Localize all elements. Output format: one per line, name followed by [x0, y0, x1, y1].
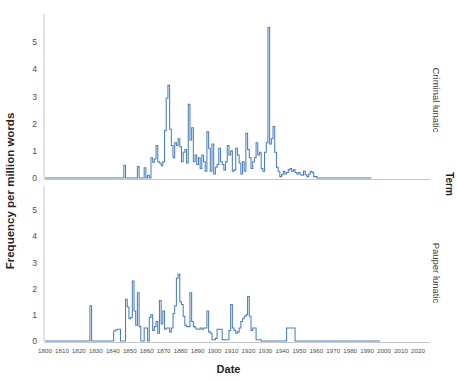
x-tick-label-1990: 1990	[360, 347, 374, 354]
x-tick-label-1870: 1870	[157, 347, 171, 354]
x-tick-label-1830: 1830	[89, 347, 103, 354]
y-tick-label-top-5: 5	[21, 38, 37, 46]
x-tick-label-1920: 1920	[242, 347, 256, 354]
y-tick-label-bottom-5: 5	[21, 206, 37, 214]
x-axis-title: Date	[0, 363, 457, 375]
y-tick-label-bottom-2: 2	[21, 285, 37, 293]
y-tick-label-top-1: 1	[21, 147, 37, 155]
facet-label-pauper-lunatic: Pauper lunatic	[431, 242, 442, 303]
x-tick-label-1820: 1820	[72, 347, 86, 354]
x-tick-label-1810: 1810	[55, 347, 69, 354]
frequency-chart-figure: Frequency per million words 001122334455…	[0, 0, 457, 381]
x-tick-label-1930: 1930	[259, 347, 273, 354]
y-tick-label-top-2: 2	[21, 120, 37, 128]
plot-canvas	[0, 0, 457, 381]
y-tick-label-top-4: 4	[21, 65, 37, 73]
x-tick-label-1850: 1850	[123, 347, 137, 354]
x-tick-label-1950: 1950	[292, 347, 306, 354]
series-criminal-lunatic	[45, 27, 371, 178]
y-tick-label-top-0: 0	[21, 174, 37, 182]
x-tick-label-1840: 1840	[106, 347, 120, 354]
x-tick-label-1900: 1900	[208, 347, 222, 354]
x-tick-label-1800: 1800	[38, 347, 52, 354]
x-tick-label-1910: 1910	[225, 347, 239, 354]
x-tick-label-2000: 2000	[377, 347, 391, 354]
x-tick-label-1880: 1880	[174, 347, 188, 354]
series-pauper-lunatic	[45, 274, 380, 341]
y-tick-label-bottom-3: 3	[21, 259, 37, 267]
x-tick-label-2020: 2020	[411, 347, 425, 354]
y-axis-title-container: Frequency per million words	[0, 0, 21, 381]
facet-label-criminal-lunatic: Criminal lunatic	[431, 68, 442, 133]
x-tick-label-1940: 1940	[275, 347, 289, 354]
x-tick-label-1980: 1980	[343, 347, 357, 354]
x-tick-label-1960: 1960	[309, 347, 323, 354]
y-tick-label-top-3: 3	[21, 93, 37, 101]
x-tick-label-1970: 1970	[326, 347, 340, 354]
y-axis-title: Frequency per million words	[4, 112, 16, 269]
x-tick-label-1860: 1860	[140, 347, 154, 354]
y-tick-label-bottom-0: 0	[21, 337, 37, 345]
right-axis-title: Term	[444, 172, 455, 196]
x-tick-label-1890: 1890	[191, 347, 205, 354]
x-tick-label-2010: 2010	[394, 347, 408, 354]
y-tick-label-bottom-1: 1	[21, 311, 37, 319]
y-tick-label-bottom-4: 4	[21, 232, 37, 240]
